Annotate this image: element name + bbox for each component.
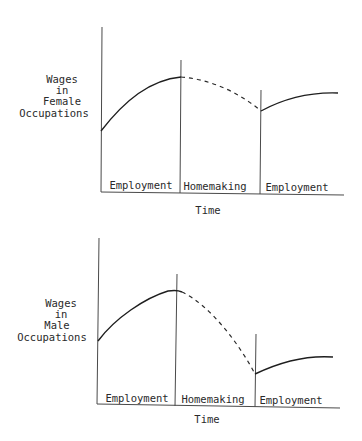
curve-homemaking [182,292,255,374]
y-axis [97,238,99,404]
phase-label-1: Employment [105,392,168,404]
x-axis-label: Time [194,413,219,425]
phase-divider-2 [255,334,256,407]
x-axis-label: Time [195,204,220,216]
phase-label-2: Homemaking [181,393,244,405]
phase-label-2: Homemaking [183,180,246,192]
phase-divider-1 [175,274,177,406]
curve-employment-1 [98,290,182,341]
curve-employment-2 [255,357,333,374]
curve-homemaking [181,77,261,111]
y-label-line-4: Occupations [19,107,89,119]
y-axis [101,27,102,192]
chart-female-occupations: Wages in Female Occupations Employment H… [19,27,344,216]
phase-label-3: Employment [259,394,322,406]
curve-employment-1 [101,77,181,131]
diagram-canvas: Wages in Female Occupations Employment H… [0,0,362,441]
phase-divider-2 [260,90,261,194]
curve-employment-2 [261,93,338,111]
phase-divider-1 [180,60,181,193]
y-label-line-3: Female [43,95,81,107]
phase-label-3: Employment [265,181,328,193]
chart-male-occupations: Wages in Male Occupations Employment Hom… [17,238,340,425]
phase-label-1: Employment [109,179,172,191]
y-label-line-4: Occupations [17,331,87,343]
y-label-line-3: Male [44,319,69,331]
